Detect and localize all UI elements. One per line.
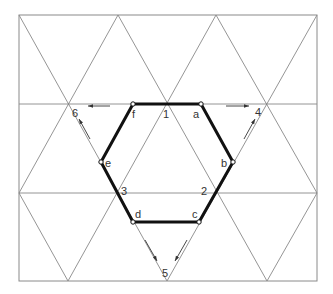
label-c: c xyxy=(192,208,198,220)
label-2: 2 xyxy=(201,185,207,197)
arrow-to-6-diag xyxy=(79,119,90,139)
label-a: a xyxy=(193,108,200,120)
arrowhead-icon xyxy=(251,119,255,124)
arrow-to-6 xyxy=(88,104,110,108)
diagram-frame xyxy=(19,15,317,281)
point-labels: f1a64eb32dc5 xyxy=(72,106,261,279)
label-4: 4 xyxy=(255,106,261,118)
vertex-b xyxy=(231,160,235,164)
label-3: 3 xyxy=(121,185,127,197)
label-b: b xyxy=(221,157,227,169)
arrow-to-4 xyxy=(226,104,249,108)
arrow-to-5-left xyxy=(145,240,157,261)
label-d: d xyxy=(135,208,141,220)
arrowhead-icon xyxy=(244,104,249,108)
grid-line xyxy=(19,193,68,281)
grid-line xyxy=(118,15,267,281)
vertex-f xyxy=(131,102,135,106)
vertex-a xyxy=(199,102,203,106)
vertex-c xyxy=(197,220,201,224)
triangular-grid xyxy=(19,15,317,281)
grid-line xyxy=(19,15,167,281)
arrow-to-5-right xyxy=(175,240,187,261)
direction-arrows xyxy=(79,104,255,261)
grid-line xyxy=(267,193,317,281)
label-e: e xyxy=(105,157,111,169)
arrowhead-icon xyxy=(88,104,93,108)
label-6: 6 xyxy=(72,107,78,119)
hexagon-vertices xyxy=(99,102,235,224)
label-1: 1 xyxy=(163,108,169,120)
vertex-d xyxy=(131,220,135,224)
grid-line xyxy=(68,15,216,281)
label-f: f xyxy=(132,108,136,120)
label-5: 5 xyxy=(162,267,168,279)
grid-line xyxy=(167,15,317,281)
arrow-to-4-diag xyxy=(244,119,255,139)
vertex-e xyxy=(99,160,103,164)
hexagon-lattice-diagram: f1a64eb32dc5 xyxy=(0,0,333,294)
hexagon-outline xyxy=(101,104,233,222)
